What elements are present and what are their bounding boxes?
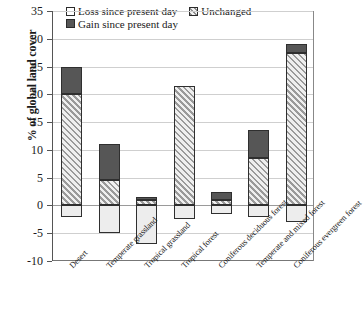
bar-group [61,11,82,261]
y-tick-label-35: 35 [0,5,43,17]
bar-segment-gain [61,67,82,95]
bar-segment-loss [211,205,232,213]
bar-segment-gain [99,144,120,180]
y-tick-label--5: -5 [0,227,43,239]
bar-group [211,11,232,261]
bar-segment-unchanged [286,53,307,206]
y-tick-label-5: 5 [0,172,43,184]
y-tick-label-10: 10 [0,144,43,156]
y-tick-label-25: 25 [0,61,43,73]
bar-segment-gain [248,130,269,158]
y-tick-label-30: 30 [0,33,43,45]
y-tick-label-15: 15 [0,116,43,128]
bar-segment-unchanged [99,180,120,205]
bar-group [99,11,120,261]
bar-segment-loss [174,205,195,219]
x-axis-labels: DesertTemperate grasslandTropical grassl… [52,263,314,314]
y-tick-label--10: -10 [0,255,43,267]
bar-segment-unchanged [248,158,269,205]
bar-segment-gain [211,192,232,200]
bar-segment-unchanged [61,94,82,205]
y-tick-label-20: 20 [0,88,43,100]
bar-segment-loss [99,205,120,233]
bar-segment-gain [286,44,307,52]
bar-segment-gain [136,197,157,200]
y-tick-mark--10 [47,261,52,262]
y-tick-label-0: 0 [0,199,43,211]
bar-segment-loss [61,205,82,216]
y-axis-title: % of global land cover [25,6,40,166]
bar-segment-unchanged [174,86,195,205]
